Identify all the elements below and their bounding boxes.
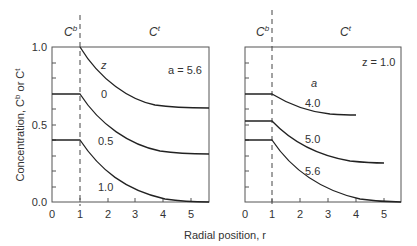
left-curve-z-0.5 [52,94,209,154]
left-annotation: a = 5.6 [168,64,202,76]
right-y-ticks [245,63,249,187]
ytick-1.0: 1.0 [32,41,47,53]
right-curve-label-5.0: 5.0 [305,133,320,145]
left-cb-label: Cb [64,24,78,39]
right-curve-a-5.6 [245,140,401,202]
left-x-tick-labels: 0 1 2 3 4 5 [49,208,194,220]
x-axis-title: Radial position, r [184,229,266,241]
left-y-ticks [52,63,56,187]
svg-text:2: 2 [105,208,111,220]
left-curve-label-0: 0 [101,88,107,100]
right-legend-header: a [311,77,317,89]
right-curve-a-4.0 [245,94,356,115]
right-panel: Cb Ct z = 1.0 a 4.0 5.0 5.6 0 1 2 3 4 5 [242,10,401,220]
left-curve-label-0.5: 0.5 [98,135,113,147]
svg-text:2: 2 [297,208,303,220]
right-curve-label-4.0: 4.0 [305,97,320,109]
chart-figure: Cb Ct a = 5.6 z 0 0.5 1.0 1.0 0.5 0.0 0 … [0,0,417,246]
right-cb-label: Cb [256,24,270,39]
left-curve-z-1.0 [52,140,209,202]
svg-text:0: 0 [242,208,248,220]
svg-text:3: 3 [325,208,331,220]
right-annotation: z = 1.0 [362,56,395,68]
right-curve-label-5.6: 5.6 [305,165,320,177]
right-x-tick-labels: 0 1 2 3 4 5 [242,208,387,220]
svg-text:4: 4 [160,208,166,220]
left-curve-label-1.0: 1.0 [98,181,113,193]
svg-text:1: 1 [77,208,83,220]
ytick-0.0: 0.0 [32,196,47,208]
ytick-0.5: 0.5 [32,119,47,131]
y-axis-title: Concentration, Cb or Ct [13,68,26,182]
left-legend-header: z [100,59,107,71]
left-curve-z-0 [80,47,209,108]
left-ct-label: Ct [149,24,161,39]
right-ct-label: Ct [340,24,352,39]
svg-text:5: 5 [188,208,194,220]
left-panel: Cb Ct a = 5.6 z 0 0.5 1.0 1.0 0.5 0.0 0 … [32,15,209,220]
svg-text:3: 3 [132,208,138,220]
right-plot-frame [245,47,401,202]
svg-text:1: 1 [269,208,275,220]
svg-text:5: 5 [381,208,387,220]
svg-text:4: 4 [353,208,359,220]
svg-text:0: 0 [49,208,55,220]
